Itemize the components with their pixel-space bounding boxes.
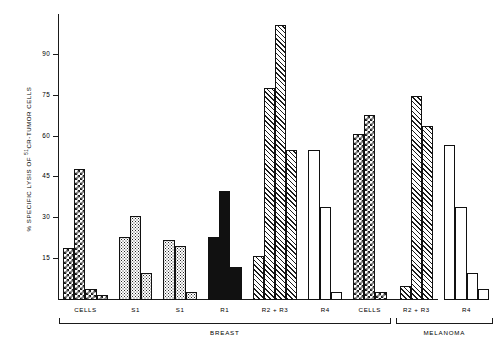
y-axis-title-suffix: CR-TUMOR CELLS bbox=[25, 87, 32, 149]
bracket-label-breast: BREAST bbox=[210, 329, 240, 336]
bar bbox=[130, 216, 141, 300]
bracket-melanoma bbox=[396, 318, 493, 324]
bar bbox=[400, 286, 411, 300]
bar bbox=[208, 237, 219, 300]
y-tick-label-45: 45 bbox=[42, 172, 50, 179]
y-axis-title: % SPECIFIC LYSIS OF 51CR-TUMOR CELLS bbox=[26, 34, 32, 284]
bar bbox=[63, 248, 74, 300]
bar bbox=[141, 273, 152, 300]
y-axis-title-superscript: 51 bbox=[24, 149, 29, 155]
bar bbox=[175, 246, 186, 300]
y-tick-75: 75 bbox=[53, 95, 59, 96]
bar bbox=[253, 256, 264, 300]
bar bbox=[286, 150, 297, 300]
bracket-breast bbox=[59, 318, 391, 324]
bar bbox=[422, 126, 433, 300]
x-group-label: S1 bbox=[131, 306, 140, 313]
bar bbox=[478, 289, 489, 300]
bar bbox=[331, 292, 342, 300]
bar bbox=[364, 115, 375, 300]
y-tick-45: 45 bbox=[53, 176, 59, 177]
y-tick-30: 30 bbox=[53, 217, 59, 218]
bar bbox=[467, 273, 478, 300]
bracket-label-melanoma: MELANOMA bbox=[423, 329, 465, 336]
x-group-label: R4 bbox=[321, 306, 330, 313]
bar bbox=[186, 292, 197, 300]
y-tick-label-15: 15 bbox=[42, 254, 50, 261]
bar bbox=[85, 289, 96, 300]
bar bbox=[444, 145, 455, 300]
bar bbox=[308, 150, 319, 300]
x-group-label: CELLS bbox=[359, 306, 381, 313]
bar bbox=[230, 267, 241, 300]
x-group-label: R4 bbox=[462, 306, 471, 313]
bar bbox=[119, 237, 130, 300]
bar bbox=[353, 134, 364, 300]
bar bbox=[219, 191, 230, 300]
bar bbox=[320, 207, 331, 300]
y-tick-15: 15 bbox=[53, 258, 59, 259]
y-axis-title-prefix: % SPECIFIC LYSIS OF bbox=[25, 155, 32, 232]
y-tick-label-75: 75 bbox=[42, 91, 50, 98]
bar bbox=[74, 169, 85, 300]
y-axis-line bbox=[58, 14, 59, 300]
bar bbox=[275, 25, 286, 300]
x-group-label: R1 bbox=[220, 306, 229, 313]
bar bbox=[375, 292, 386, 300]
y-tick-label-90: 90 bbox=[42, 50, 50, 57]
x-group-label: S1 bbox=[176, 306, 185, 313]
x-group-label: R2 + R3 bbox=[262, 306, 289, 313]
bar bbox=[163, 240, 174, 300]
y-tick-90: 90 bbox=[53, 54, 59, 55]
bar bbox=[411, 96, 422, 300]
x-group-label: CELLS bbox=[74, 306, 96, 313]
bar bbox=[264, 88, 275, 300]
y-tick-label-30: 30 bbox=[42, 213, 50, 220]
plot-area: 153045607590 bbox=[58, 14, 438, 300]
y-tick-60: 60 bbox=[53, 136, 59, 137]
y-tick-label-60: 60 bbox=[42, 132, 50, 139]
bar bbox=[455, 207, 466, 300]
bar bbox=[97, 295, 108, 300]
x-group-label: R2 + R3 bbox=[403, 306, 430, 313]
